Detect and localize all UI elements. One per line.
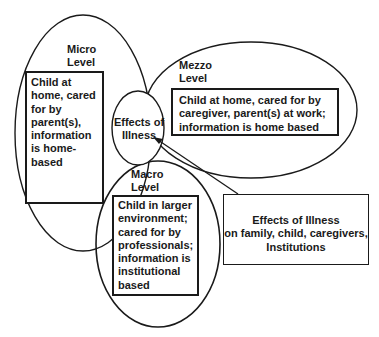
micro-box-line: Child at [31,76,98,89]
macro-box-line: information is [118,252,193,265]
mezzo-box-line: Child at home, cared for by [179,94,331,107]
macro-box-line: professionals; [118,239,193,252]
micro-box-line: home, cared [31,89,98,102]
macro-box-line: institutional [118,265,193,278]
effects-callout-box: Effects of Illness on family, child, car… [223,194,369,265]
effects-of-illness-label: Effects of Illness [112,116,166,142]
macro-box-line: cared for by [118,226,193,239]
mezzo-level-title: Mezzo Level [179,59,212,85]
mezzo-title-line1: Mezzo [179,59,212,72]
micro-box-line: is home- [31,142,98,155]
mezzo-title-line2: Level [179,72,212,85]
macro-box-line: based [118,279,193,292]
macro-level-box: Child in larger environment; cared for b… [112,195,199,296]
mezzo-level-box: Child at home, cared for by caregiver, p… [171,88,339,136]
effects-box-line: Effects of Illness [224,214,368,227]
micro-box-line: information [31,129,98,142]
macro-box-line: environment; [118,212,193,225]
macro-box-line: Child in larger [118,199,193,212]
arrow-line [158,140,238,194]
mezzo-box-line: information is home based [179,121,331,134]
macro-title-line1: Macro [131,168,163,181]
center-line2: Illness [112,129,166,142]
effects-box-line: on family, child, caregivers, [224,227,368,240]
micro-level-title: Micro Level [67,43,96,69]
macro-title-line2: Level [131,181,163,194]
center-line1: Effects of [112,116,166,129]
micro-box-line: based [31,156,98,169]
micro-box-line: parent(s), [31,116,98,129]
effects-box-line: Institutions [224,241,368,254]
micro-title-line1: Micro [67,43,96,56]
micro-level-box: Child at home, cared for by parent(s), i… [25,71,104,204]
macro-level-title: Macro Level [131,168,163,194]
mezzo-box-line: caregiver, parent(s) at work; [179,107,331,120]
micro-title-line2: Level [67,56,96,69]
micro-box-line: for by [31,103,98,116]
